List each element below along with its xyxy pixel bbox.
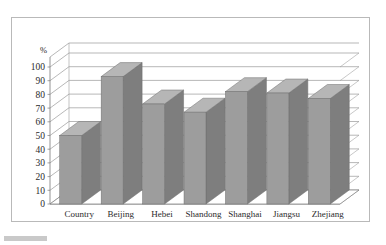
bar-shandong — [184, 98, 225, 204]
x-category-label: Jiangsu — [273, 209, 301, 219]
y-tick-label: 30 — [36, 158, 46, 168]
bar-chart-3d: 0102030405060708090100 CountryBeijingHeb… — [12, 18, 369, 221]
screenshot-root: 0102030405060708090100 CountryBeijingHeb… — [0, 0, 386, 245]
y-tick-label: 90 — [36, 76, 46, 86]
y-tick-label: 80 — [36, 90, 46, 100]
page-artifact-bar — [4, 236, 47, 241]
y-axis-unit-label: % — [40, 45, 47, 55]
x-category-label: Country — [65, 209, 95, 219]
y-tick-label: 40 — [36, 145, 46, 155]
bar-shanghai — [225, 78, 266, 204]
x-category-label: Beijing — [107, 209, 134, 219]
y-tick-labels: 0102030405060708090100 — [31, 62, 50, 209]
bar-beijing — [101, 63, 142, 204]
y-tick-label: 0 — [40, 199, 45, 209]
bar-country — [60, 122, 101, 205]
x-category-labels: CountryBeijingHebeiShandongShanghaiJiang… — [65, 209, 345, 219]
chart-border: 0102030405060708090100 CountryBeijingHeb… — [11, 17, 370, 222]
y-tick-label: 50 — [36, 131, 46, 141]
y-tick-label: 10 — [36, 186, 46, 196]
x-category-label: Shandong — [186, 209, 223, 219]
y-tick-label: 20 — [36, 172, 46, 182]
bar-hebei — [143, 90, 184, 204]
bar-jiangsu — [267, 79, 308, 204]
bar-zhejiang — [308, 85, 349, 204]
y-tick-label: 70 — [36, 104, 46, 114]
y-tick-label: 100 — [31, 62, 46, 72]
y-tick-label: 60 — [36, 117, 46, 127]
x-category-label: Zhejiang — [312, 209, 344, 219]
bars-group — [60, 63, 350, 204]
x-category-label: Hebei — [151, 209, 173, 219]
x-category-label: Shanghai — [228, 209, 262, 219]
